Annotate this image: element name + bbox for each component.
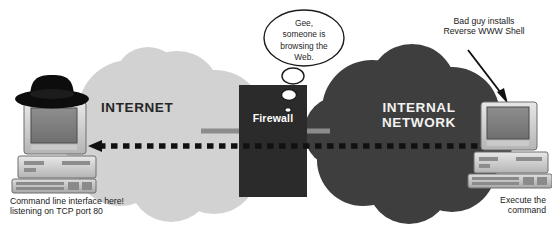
thought-bubble-text: Gee, someone is browsing the Web.	[268, 18, 340, 63]
right-computer-icon	[468, 102, 552, 188]
left-computer-caption: Command line interface here! listening o…	[10, 196, 124, 217]
network-diagram-canvas: INTERNET INTERNAL NETWORK Firewall Gee, …	[0, 0, 552, 241]
internal-network-cloud-label: INTERNAL NETWORK	[382, 101, 456, 131]
right-computer-caption: Execute the command	[466, 195, 546, 216]
bad-guy-annotation: Bad guy installs Reverse WWW Shell	[424, 16, 544, 37]
firewall-label: Firewall	[244, 112, 302, 124]
firewall-box	[239, 85, 307, 197]
internet-cloud-label: INTERNET	[101, 101, 173, 116]
left-computer-icon	[12, 102, 96, 193]
black-hat-icon	[15, 75, 89, 109]
